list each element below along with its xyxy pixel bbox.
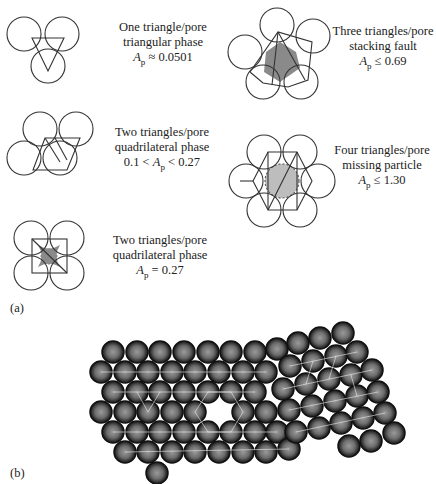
caption-line: Two triangles/pore [100, 233, 220, 248]
caption-line: triangular phase [108, 35, 218, 50]
quadrilateral-range-diagram [7, 112, 93, 175]
caption-missing-particle: Four triangles/pore missing particle Ap … [328, 143, 436, 193]
caption-line: Four triangles/pore [328, 143, 436, 158]
caption-line: stacking fault [330, 39, 436, 54]
missing-particle-diagram [229, 135, 335, 227]
caption-line: Two triangles/pore [102, 125, 222, 140]
caption-line: quadrilateral phase [102, 140, 222, 155]
caption-line: missing particle [328, 158, 436, 173]
stacking-fault-diagram [228, 8, 330, 99]
caption-quadrilateral-square: Two triangles/pore quadrilateral phase A… [100, 233, 220, 283]
caption-quadrilateral-range: Two triangles/pore quadrilateral phase 0… [102, 125, 222, 175]
area-ratio-value: Ap ≈ 0.0501 [108, 50, 218, 70]
caption-line: One triangle/pore [108, 20, 218, 35]
triangular-phase-diagram [7, 17, 79, 83]
panel-label-b: (b) [10, 466, 25, 481]
caption-triangular-phase: One triangle/pore triangular phase Ap ≈ … [108, 20, 218, 70]
area-ratio-value: Ap ≤ 0.69 [330, 54, 436, 74]
quadrilateral-square-diagram [14, 221, 84, 290]
particle-monolayer [90, 322, 405, 484]
area-ratio-value: Ap = 0.27 [100, 263, 220, 283]
area-ratio-value: Ap ≤ 1.30 [328, 173, 436, 193]
caption-line: quadrilateral phase [100, 248, 220, 263]
caption-stacking-fault: Three triangles/pore stacking fault Ap ≤… [330, 24, 436, 74]
area-ratio-value: 0.1 < Ap < 0.27 [102, 155, 222, 175]
caption-line: Three triangles/pore [330, 24, 436, 39]
panel-label-a: (a) [10, 301, 24, 316]
